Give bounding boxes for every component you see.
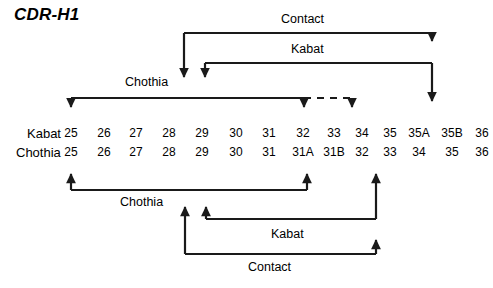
position-cell: 29 [184,145,220,159]
position-cell: 26 [86,145,122,159]
label-bottom-contact: Contact [248,261,291,274]
position-cell: 28 [151,126,187,140]
position-cell: 27 [118,126,154,140]
position-cell: 25 [53,145,89,159]
position-cell: 36 [464,145,493,159]
position-cell: 34 [401,145,437,159]
label-bottom-chothia: Chothia [120,196,163,209]
label-top-chothia: Chothia [125,76,168,89]
label-top-contact: Contact [281,13,324,26]
position-cell: 29 [184,126,220,140]
position-cell: 25 [53,126,89,140]
position-cell: 28 [151,145,187,159]
position-cell: 30 [218,145,254,159]
position-cell: 31 [251,126,287,140]
label-bottom-kabat: Kabat [271,228,304,241]
position-cell: 27 [118,145,154,159]
label-top-kabat: Kabat [291,43,324,56]
position-cell: 26 [86,126,122,140]
position-cell: 35A [401,126,437,140]
position-cell: 31 [251,145,287,159]
position-cell: 36 [464,126,493,140]
position-cell: 30 [218,126,254,140]
